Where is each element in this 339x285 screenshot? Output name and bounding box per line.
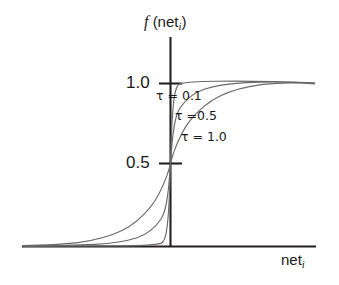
- y-tick-label-1-0: 1.0: [126, 74, 150, 91]
- y-axis-title-close: ): [181, 13, 186, 30]
- curve-annotation-tau-0-5: τ =0.5: [175, 110, 217, 123]
- y-tick-label-0-5: 0.5: [126, 154, 150, 171]
- curve-annotation-tau-1-0: τ = 1.0: [181, 131, 227, 144]
- y-axis-title: f (neti): [144, 14, 186, 32]
- plot-area: [0, 0, 339, 285]
- x-axis-title: neti: [281, 252, 305, 270]
- curve-annotation-tau-0-1: τ = 0.1: [156, 90, 202, 103]
- y-axis-title-function: f: [144, 13, 148, 30]
- y-axis-title-arg: (net: [153, 13, 179, 30]
- sigmoid-activation-figure: f (neti) neti 1.0 0.5 τ = 0.1 τ =0.5 τ =…: [0, 0, 339, 285]
- x-axis-title-main: net: [281, 251, 302, 268]
- x-axis-title-subscript: i: [302, 258, 305, 270]
